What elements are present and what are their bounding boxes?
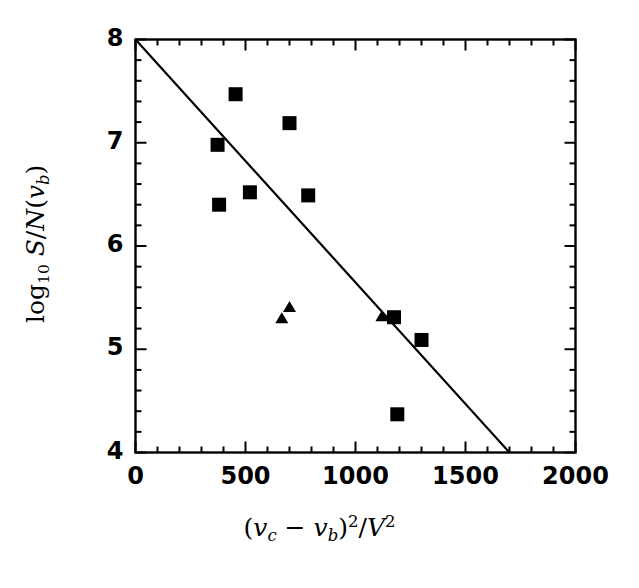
data-point-square [243, 185, 257, 199]
figure-canvas: log10 S/N(vb) (vc − vb)2/V2 45678 050010… [0, 0, 639, 588]
data-point-square [229, 87, 243, 101]
axis-ticks [136, 40, 576, 453]
data-point-square [301, 188, 315, 202]
data-markers [211, 87, 429, 421]
y-tick-label: 4 [84, 437, 124, 465]
fit-line [136, 40, 510, 453]
data-point-square [212, 198, 226, 212]
y-tick-label: 8 [84, 24, 124, 52]
data-point-square [415, 333, 429, 347]
data-point-square [211, 138, 225, 152]
plot-area [0, 0, 639, 588]
regression-line [136, 40, 510, 453]
x-tick-label: 0 [91, 462, 181, 490]
data-point-square [283, 116, 297, 130]
data-point-triangle [283, 301, 296, 312]
x-tick-label: 500 [201, 462, 291, 490]
data-point-triangle [275, 312, 288, 323]
axis-frame [136, 40, 576, 453]
data-point-square [390, 407, 404, 421]
x-tick-label: 1500 [421, 462, 511, 490]
x-tick-label: 2000 [531, 462, 621, 490]
y-tick-label: 7 [84, 127, 124, 155]
y-tick-label: 5 [84, 333, 124, 361]
y-tick-label: 6 [84, 230, 124, 258]
x-tick-label: 1000 [311, 462, 401, 490]
data-point-square [387, 310, 401, 324]
